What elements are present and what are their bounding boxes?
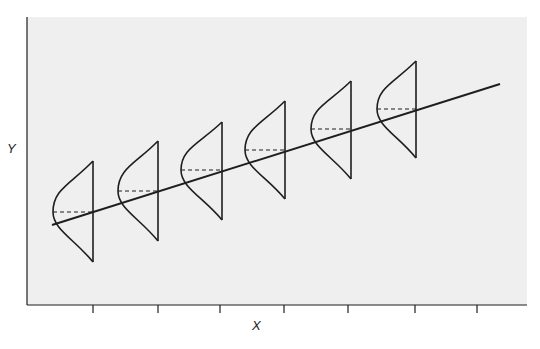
regression-diagram (0, 0, 540, 349)
plot-area (27, 17, 527, 305)
y-axis-label: Y (7, 141, 16, 156)
x-axis-ticks (93, 305, 477, 313)
x-axis-label: X (252, 318, 261, 333)
